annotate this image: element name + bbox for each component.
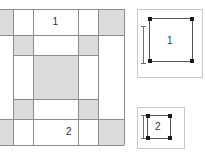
grid-cell-r0-c3 — [78, 9, 98, 35]
grid-vline-5 — [124, 9, 125, 145]
dimension-cap-bottom — [141, 63, 146, 64]
grid-hline-1 — [0, 35, 124, 36]
detail-panel-2: 2 — [137, 107, 185, 149]
grid-vline-3-top — [78, 9, 79, 35]
grid-cell-r2-c1 — [13, 55, 33, 99]
grid-hline-3 — [13, 99, 98, 100]
detail-panel-2-label: 2 — [155, 122, 161, 132]
grid-cell-r1-c2 — [33, 35, 78, 55]
detail-panel-1-label: 1 — [167, 36, 173, 46]
grid-cell-r1-c3 — [78, 35, 98, 55]
grid-cell-r4-c1 — [13, 119, 33, 145]
grid-cell-r3-c3 — [78, 99, 98, 119]
grid-cell-r0-c4 — [98, 9, 124, 35]
grid-vline-2-bot — [33, 119, 34, 145]
grid-cell-r1-c1 — [13, 35, 33, 55]
handle-top-right-icon[interactable] — [168, 114, 172, 118]
grid-cell-r0-c1 — [13, 9, 33, 35]
grid-vline-2 — [33, 35, 34, 119]
grid-cell-r3-c4 — [98, 99, 124, 119]
grid-vline-3-bot — [78, 119, 79, 145]
grid-cell-r2-c3 — [78, 55, 98, 99]
grid-hline-2 — [13, 55, 98, 56]
grid-cell-r1-c0 — [0, 35, 13, 55]
handle-bottom-right-icon[interactable] — [168, 136, 172, 140]
dimension-cap-top — [141, 26, 146, 27]
grid-cell-r4-c0 — [0, 119, 13, 145]
grid-cell-r3-c1 — [13, 99, 33, 119]
handle-top-left-icon[interactable] — [146, 114, 150, 118]
detail-panel-1: 1 — [137, 9, 203, 78]
grid-vline-3 — [78, 35, 79, 119]
handle-bottom-left-icon[interactable] — [146, 136, 150, 140]
grid-cell-r0-c0 — [0, 9, 13, 35]
handle-bottom-right-icon[interactable] — [190, 59, 194, 63]
grid-cell-r1-c4 — [98, 35, 124, 55]
grid-cell-r3-c0 — [0, 99, 13, 119]
handle-top-right-icon[interactable] — [190, 17, 194, 21]
dimension-bar — [143, 115, 144, 139]
grid-vline-4 — [98, 9, 99, 145]
grid-vline-2-top — [33, 9, 34, 35]
grid-cell-r2-c0 — [0, 55, 13, 99]
grid-cell-r3-c2 — [33, 99, 78, 119]
grid-hline-4 — [0, 119, 124, 120]
figure-canvas: 1 2 1 2 — [0, 0, 205, 152]
grid-hline-5 — [0, 145, 124, 146]
grid-cell-r4-c4 — [98, 119, 124, 145]
grid-cell-r2-c4 — [98, 55, 124, 99]
grid-label-piece-2: 2 — [66, 127, 72, 137]
grid-hline-0 — [0, 9, 124, 10]
dimension-arrow-icon — [141, 26, 146, 64]
dimension-bar — [143, 26, 144, 64]
quilt-block-grid: 1 2 — [0, 9, 124, 145]
grid-cell-r4-c3 — [78, 119, 98, 145]
grid-label-piece-1: 1 — [53, 17, 59, 27]
grid-vline-1 — [13, 9, 14, 145]
handle-bottom-left-icon[interactable] — [148, 59, 152, 63]
handle-top-left-icon[interactable] — [148, 17, 152, 21]
grid-cell-r2-c2 — [33, 55, 78, 99]
